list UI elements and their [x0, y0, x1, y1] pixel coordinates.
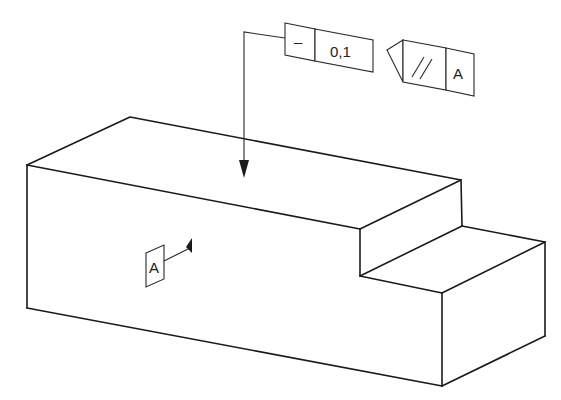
tolerance-value: 0,1 — [330, 43, 351, 60]
straightness-leader — [239, 32, 285, 178]
parallelism-frame: A — [387, 40, 474, 96]
datum-feature-symbol: A — [146, 238, 192, 287]
right-bottom-edge — [442, 336, 545, 386]
top-right-edge — [360, 180, 461, 229]
straightness-symbol: – — [294, 33, 303, 50]
step-tread-right — [462, 226, 545, 242]
frame-cell-parallel — [403, 40, 446, 90]
datum-triangle-filled-icon — [186, 238, 192, 253]
step-tread-back — [360, 226, 462, 276]
technical-drawing: – 0,1 A A — [0, 0, 561, 400]
datum-triangle-icon — [387, 40, 403, 82]
step-tread-front — [360, 276, 442, 293]
front-bottom-edge — [27, 308, 442, 386]
datum-leader — [164, 248, 190, 261]
datum-reference: A — [453, 65, 463, 82]
arrowhead-icon — [239, 160, 249, 178]
datum-label: A — [149, 259, 159, 276]
lower-top-diagonal — [442, 242, 545, 293]
stepped-block — [27, 117, 545, 386]
straightness-frame: – 0,1 — [285, 23, 373, 72]
front-top-edge — [27, 165, 360, 229]
step-riser-back — [461, 180, 462, 226]
